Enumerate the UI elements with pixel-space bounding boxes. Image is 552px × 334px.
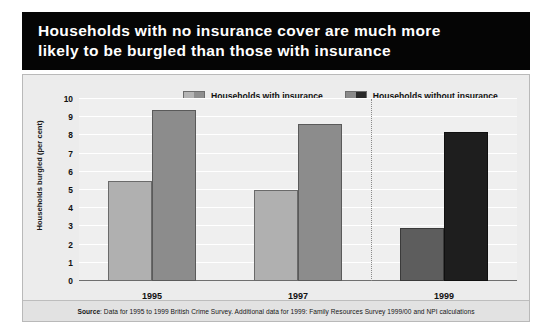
bar-1995-with-insurance	[108, 181, 152, 281]
chart-title-line-1: Households with no insurance cover are m…	[38, 21, 514, 41]
bar-1999-without-insurance	[444, 132, 488, 281]
y-axis-tick-label: 7	[68, 149, 73, 159]
source-strip: Source: Data for 1995 to 1999 British Cr…	[23, 300, 529, 321]
source-label: Source	[77, 308, 100, 315]
y-axis-tick-label: 5	[68, 185, 73, 195]
y-axis-tick-label: 1	[68, 258, 73, 268]
y-axis-title: Households burgled (per cent)	[35, 96, 44, 256]
gridline	[79, 116, 517, 117]
chart-panel: Households with insurance Households wit…	[22, 74, 530, 322]
chart-title-banner: Households with no insurance cover are m…	[22, 12, 530, 70]
bar-1997-without-insurance	[298, 124, 342, 281]
bar-1997-with-insurance	[254, 190, 298, 281]
y-axis-tick-label: 4	[68, 203, 73, 213]
y-axis-tick-label: 10	[64, 94, 73, 104]
y-axis-tick-label: 9	[68, 112, 73, 122]
y-axis-tick-label: 6	[68, 167, 73, 177]
gridline	[79, 98, 517, 99]
bar-1995-without-insurance	[152, 110, 196, 281]
y-axis-tick-label: 3	[68, 221, 73, 231]
chart-title-line-2: likely to be burgled than those with ins…	[38, 41, 514, 61]
bar-1999-with-insurance	[400, 228, 444, 281]
y-axis-tick-label: 8	[68, 130, 73, 140]
source-text: Source: Data for 1995 to 1999 British Cr…	[77, 308, 474, 315]
source-body: : Data for 1995 to 1999 British Crime Su…	[100, 308, 474, 315]
chart-page: Households with no insurance cover are m…	[0, 0, 552, 334]
y-axis-tick-label: 2	[68, 240, 73, 250]
plot-area: 012345678910199519971999	[79, 99, 517, 281]
y-axis-tick-label: 0	[68, 276, 73, 286]
plot-wrap: Households burgled (per cent) 0123456789…	[23, 75, 529, 321]
series-divider	[371, 99, 372, 281]
